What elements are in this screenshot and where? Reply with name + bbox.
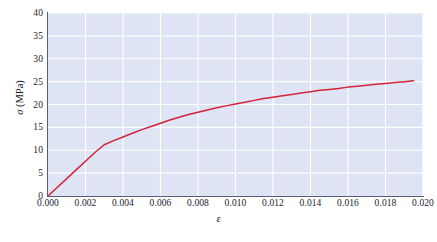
y-axis-title: σ (MPa)	[14, 53, 25, 143]
x-axis-tick-label: 0.000	[37, 198, 59, 209]
x-axis-tick-label: 0.018	[375, 198, 397, 209]
x-axis-tick-label: 0.014	[300, 198, 322, 209]
x-axis-tick-label: 0.006	[150, 198, 172, 209]
x-axis-tick-labels: 0.0000.0020.0040.0060.0080.0100.0120.014…	[0, 0, 437, 242]
stress-strain-chart: 4035302520151050 0.0000.0020.0040.0060.0…	[0, 0, 437, 242]
x-axis-tick-label: 0.012	[262, 198, 284, 209]
x-axis-tick-label: 0.010	[225, 198, 247, 209]
x-axis-title: ε	[0, 213, 437, 224]
x-axis-tick-label: 0.016	[337, 198, 359, 209]
x-axis-tick-label: 0.002	[75, 198, 97, 209]
x-axis-tick-label: 0.008	[187, 198, 209, 209]
x-axis-tick-label: 0.020	[412, 198, 434, 209]
x-axis-tick-label: 0.004	[112, 198, 134, 209]
